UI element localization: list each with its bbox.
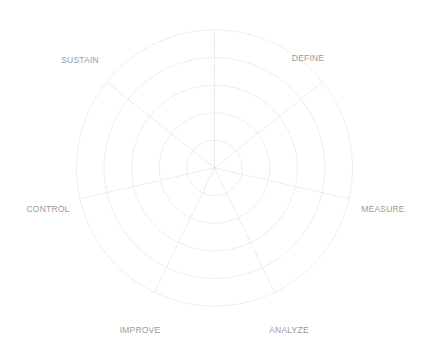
axis-label-improve: IMPROVE: [120, 325, 161, 335]
axis-label-control: CONTROL: [27, 204, 70, 214]
axis-spoke: [155, 168, 215, 292]
axis-label-measure: MEASURE: [361, 204, 404, 214]
axis-spoke: [215, 168, 350, 199]
axis-spoke: [215, 168, 275, 292]
axis-label-analyze: ANALYZE: [269, 325, 309, 335]
axis-label-define: DEFINE: [292, 53, 324, 63]
axis-label-sustain: SUSTAIN: [61, 55, 99, 65]
spoke-group: [80, 30, 349, 292]
radar-grid: [0, 0, 425, 353]
axis-spoke: [80, 168, 215, 199]
